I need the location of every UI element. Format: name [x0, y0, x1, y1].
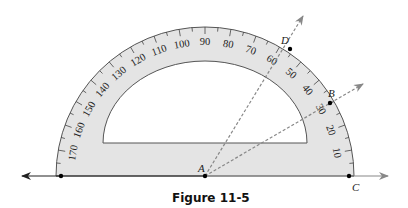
protractor-body: [56, 27, 354, 176]
point-D: [288, 47, 292, 51]
point-C: [347, 174, 351, 178]
label-D: D: [280, 34, 289, 46]
point-A: [203, 174, 207, 178]
scale-label-90: 90: [200, 36, 211, 47]
scale-label-10: 10: [331, 147, 344, 159]
label-C: C: [352, 181, 360, 193]
scale-label-80: 80: [222, 38, 234, 51]
protractor-diagram: 1020304050607080901001101201301401501601…: [0, 0, 408, 208]
figure-caption: Figure 11-5: [172, 191, 250, 205]
point-B: [328, 101, 332, 105]
label-A: A: [197, 162, 205, 174]
label-B: B: [328, 87, 335, 99]
point-left-end: [59, 174, 63, 178]
